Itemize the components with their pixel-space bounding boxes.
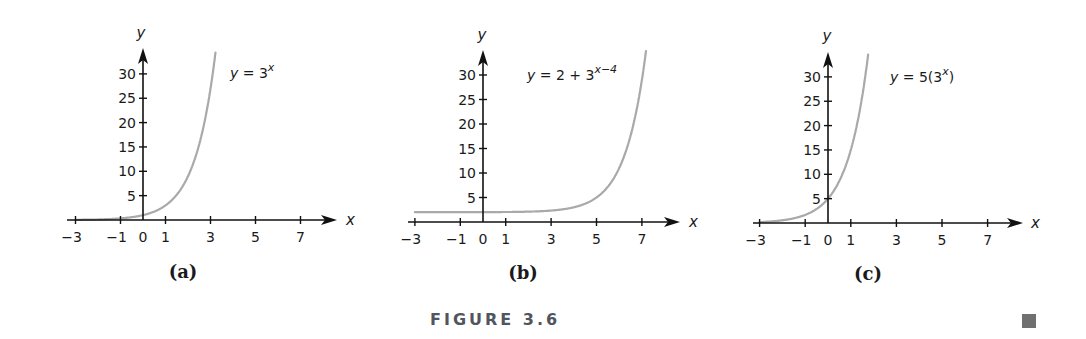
y-tick-label: 5 [467, 190, 476, 206]
y-tick-label: 15 [803, 142, 821, 158]
x-tick-label: 7 [983, 232, 992, 248]
x-tick-label: 3 [547, 231, 556, 247]
x-tick-label: 0 [139, 229, 148, 245]
x-tick-label: 1 [846, 232, 855, 248]
x-tick-label: −3 [401, 231, 422, 247]
y-tick-label: 25 [118, 90, 136, 106]
panel-a-chart: −3−10135751015202530yxy = 3x(a) [61, 24, 355, 282]
y-tick-label: 15 [118, 139, 136, 155]
y-axis-label: y [136, 24, 147, 42]
x-axis-label: x [1030, 214, 1040, 232]
y-tick-label: 30 [118, 66, 136, 82]
x-tick-label: 0 [824, 232, 833, 248]
panel-b-chart: −3−10135751015202530yxy = 2 + 3x−4(b) [401, 26, 698, 283]
x-tick-label: 5 [251, 229, 260, 245]
equation-label: y = 2 + 3x−4 [526, 63, 617, 83]
x-tick-label: −1 [791, 232, 812, 248]
x-tick-label: 7 [296, 229, 305, 245]
equation-label: y = 3x [229, 61, 275, 81]
x-tick-label: 5 [592, 231, 601, 247]
y-tick-label: 20 [803, 118, 821, 134]
end-of-example-square-icon [1022, 314, 1036, 328]
x-tick-label: 3 [206, 229, 215, 245]
y-tick-label: 20 [118, 115, 136, 131]
y-tick-label: 30 [803, 69, 821, 85]
function-curve [76, 53, 216, 220]
x-tick-label: −1 [106, 229, 127, 245]
y-tick-label: 10 [458, 165, 476, 181]
y-tick-label: 30 [458, 67, 476, 83]
y-tick-label: 15 [458, 141, 476, 157]
figure-caption: FIGURE 3.6 [430, 310, 560, 329]
panel-label: (a) [169, 261, 198, 282]
x-tick-label: 7 [637, 231, 646, 247]
equation-label: y = 5(3x) [889, 65, 954, 85]
x-tick-label: 1 [161, 229, 170, 245]
x-axis-label: x [345, 211, 355, 229]
y-tick-label: 5 [127, 188, 136, 204]
x-tick-label: −3 [61, 229, 82, 245]
x-tick-label: −3 [745, 232, 766, 248]
y-tick-label: 10 [803, 166, 821, 182]
x-tick-label: 3 [892, 232, 901, 248]
x-tick-label: 0 [479, 231, 488, 247]
y-tick-label: 10 [118, 163, 136, 179]
y-tick-label: 5 [812, 191, 821, 207]
x-tick-label: 5 [938, 232, 947, 248]
x-tick-label: 1 [501, 231, 510, 247]
y-tick-label: 25 [458, 92, 476, 108]
panel-label: (b) [508, 262, 538, 283]
y-tick-label: 25 [803, 93, 821, 109]
x-axis-label: x [688, 213, 698, 231]
y-axis-label: y [477, 26, 488, 44]
panel-label: (c) [854, 263, 882, 284]
y-axis-label: y [822, 27, 833, 45]
figure-3-6: −3−10135751015202530yxy = 3x(a) −3−10135… [0, 0, 1086, 339]
x-tick-label: −1 [446, 231, 467, 247]
panel-c-chart: −3−10135751015202530yxy = 5(3x)(c) [745, 27, 1040, 284]
y-tick-label: 20 [458, 116, 476, 132]
